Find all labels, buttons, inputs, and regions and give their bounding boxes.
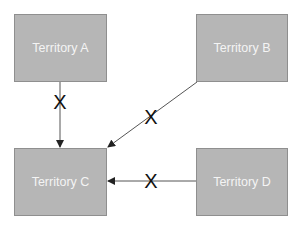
territory-c-node: Territory C [14,148,107,216]
territory-b-node: Territory B [196,14,288,82]
territory-c-label: Territory C [32,175,90,189]
territory-a-label: Territory A [32,41,88,55]
territory-d-label: Territory D [213,175,271,189]
territory-b-label: Territory B [214,41,271,55]
blocked-x-icon-b-c: X [144,107,157,127]
territory-d-node: Territory D [196,148,288,216]
blocked-x-icon-a-c: X [53,92,66,112]
territory-a-node: Territory A [14,14,107,82]
blocked-x-icon-d-c: X [144,171,157,191]
